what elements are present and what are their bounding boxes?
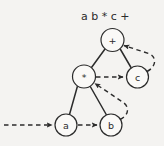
node-b[interactable]: b <box>100 114 122 136</box>
node-c-label: c <box>135 72 140 83</box>
node-a[interactable]: a <box>55 114 77 136</box>
node-b-label: b <box>108 120 114 131</box>
node-plus[interactable]: + <box>101 29 124 52</box>
node-times-label: * <box>82 72 87 83</box>
node-plus-label: + <box>109 35 117 46</box>
node-times[interactable]: * <box>73 65 96 88</box>
expression-caption: a b * c + <box>81 10 129 23</box>
node-c[interactable]: c <box>127 66 149 88</box>
node-a-label: a <box>63 120 69 131</box>
expression-tree-figure: a b * c + + * c <box>0 0 164 146</box>
